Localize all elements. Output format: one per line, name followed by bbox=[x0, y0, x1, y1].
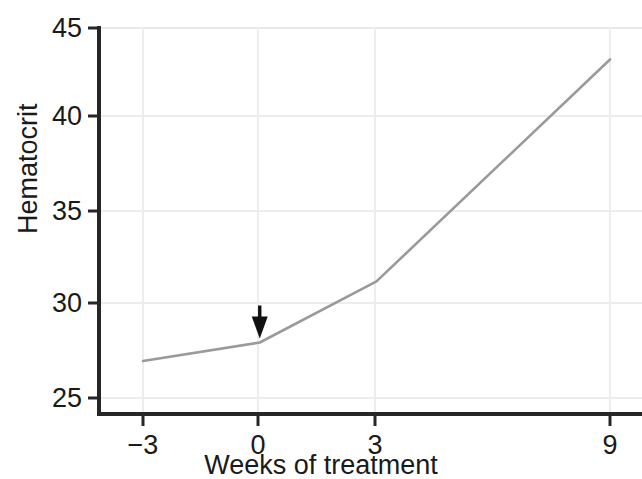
chart-plot-area bbox=[0, 0, 642, 479]
y-tick-label-45: 45 bbox=[20, 15, 82, 42]
vertical-gridlines bbox=[143, 28, 610, 414]
y-axis bbox=[88, 26, 99, 415]
x-axis bbox=[97, 414, 642, 426]
y-tick-label-25: 25 bbox=[20, 385, 82, 412]
hematocrit-line-chart-figure: 45 40 35 30 25 −3 0 3 9 Hematocrit Weeks… bbox=[0, 0, 642, 479]
y-axis-title: Hematocrit bbox=[15, 103, 42, 234]
x-axis-title: Weeks of treatment bbox=[0, 452, 642, 479]
treatment-start-arrow-annotation bbox=[252, 306, 268, 339]
y-tick-label-30: 30 bbox=[20, 290, 82, 317]
horizontal-gridlines bbox=[99, 28, 642, 398]
